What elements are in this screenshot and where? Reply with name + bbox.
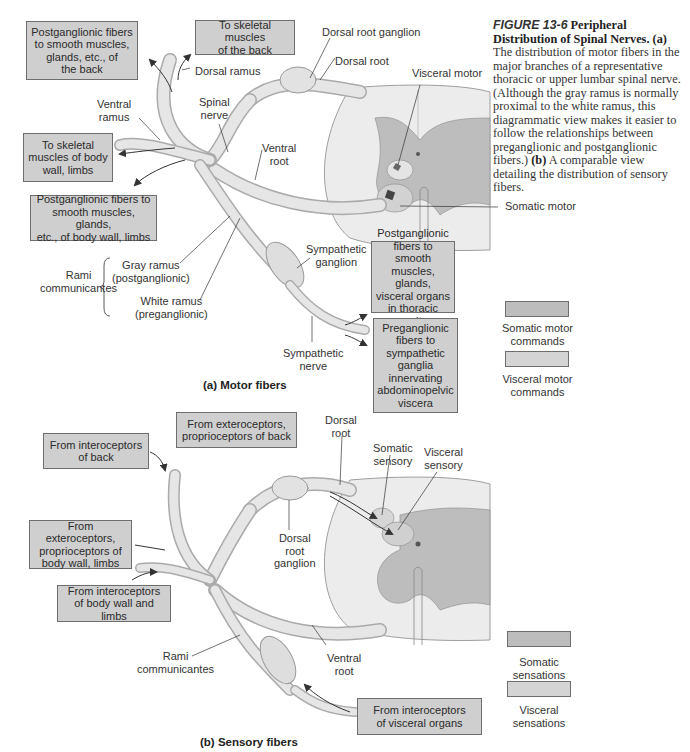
box-exteroceptors-body-wall: From exteroceptors, proprioceptors of bo… bbox=[29, 520, 132, 569]
label-gray-ramus: Gray ramus (postganglionic) bbox=[112, 259, 190, 284]
label-sympathetic-ganglion: Sympathetic ganglion bbox=[306, 243, 367, 268]
panel-b-title: (b) Sensory fibers bbox=[200, 736, 298, 748]
label-rami-communicantes-a: Rami communicantes bbox=[40, 269, 117, 294]
label-dorsal-root: Dorsal root bbox=[335, 55, 389, 68]
legend-swatch-somatic-sensations bbox=[507, 631, 571, 647]
label-ventral-root-b: Ventral root bbox=[327, 652, 361, 677]
box-postganglionic-thoracic: Postganglionic fibers to smooth muscles,… bbox=[371, 241, 455, 313]
figure-label: FIGURE 13-6 bbox=[493, 18, 567, 32]
label-visceral-sensory: Visceral sensory bbox=[424, 446, 463, 471]
legend-label-somatic-sensations: Somatic sensations bbox=[500, 656, 578, 681]
label-somatic-motor: Somatic motor bbox=[505, 200, 576, 213]
box-interoceptors-visceral: From interoceptors of visceral organs bbox=[357, 698, 482, 735]
label-dorsal-ramus: Dorsal ramus bbox=[195, 65, 260, 78]
caption-part-a-text: The distribution of motor fibers in the … bbox=[493, 45, 681, 167]
label-visceral-motor: Visceral motor bbox=[412, 67, 482, 80]
label-dorsal-root-ganglion: Dorsal root ganglion bbox=[322, 26, 420, 39]
legend-label-somatic-motor: Somatic motor commands bbox=[500, 322, 575, 347]
label-rami-communicantes-b: Rami communicantes bbox=[137, 650, 214, 675]
legend-swatch-somatic-motor bbox=[505, 301, 569, 317]
legend-swatch-visceral-motor bbox=[505, 351, 569, 367]
box-preganglionic-abdominopelvic: Preganglionic fibers to sympathetic gang… bbox=[373, 318, 458, 413]
label-spinal-nerve: Spinal nerve bbox=[199, 96, 230, 121]
legend-label-visceral-motor: Visceral motor commands bbox=[500, 373, 575, 398]
box-postganglionic-back: Postganglionic fibers to smooth muscles,… bbox=[26, 21, 138, 80]
label-ventral-ramus: Ventral ramus bbox=[97, 98, 131, 123]
legend-label-visceral-sensations: Visceral sensations bbox=[500, 704, 578, 729]
label-dorsal-root-ganglion-b: Dorsal root ganglion bbox=[274, 532, 316, 570]
legend-swatch-visceral-sensations bbox=[507, 681, 571, 697]
label-ventral-root: Ventral root bbox=[262, 142, 296, 167]
box-interoceptors-back: From interoceptors of back bbox=[43, 433, 149, 469]
label-sympathetic-nerve: Sympathetic nerve bbox=[283, 347, 344, 372]
box-postganglionic-body-wall: Postganglionic fibers to smooth muscles,… bbox=[30, 195, 157, 241]
box-skeletal-body-wall: To skeletal muscles of body wall, limbs bbox=[23, 133, 113, 182]
spinal-cord-b bbox=[324, 477, 490, 645]
caption-part-a-label: (a) bbox=[653, 32, 667, 46]
box-interoceptors-body-wall: From interoceptors of body wall and limb… bbox=[57, 585, 171, 622]
caption-part-b-label: (b) bbox=[531, 153, 546, 167]
label-dorsal-root-b: Dorsal root bbox=[325, 414, 357, 439]
label-white-ramus: White ramus (preganglionic) bbox=[135, 295, 208, 320]
panel-a-title: (a) Motor fibers bbox=[203, 379, 287, 391]
figure-caption: FIGURE 13-6 Peripheral Distribution of S… bbox=[493, 19, 685, 195]
box-exteroceptors-back: From exteroceptors, proprioceptors of ba… bbox=[176, 412, 297, 448]
box-skeletal-back: To skeletal muscles of the back bbox=[195, 20, 295, 55]
label-somatic-sensory: Somatic sensory bbox=[373, 442, 413, 467]
